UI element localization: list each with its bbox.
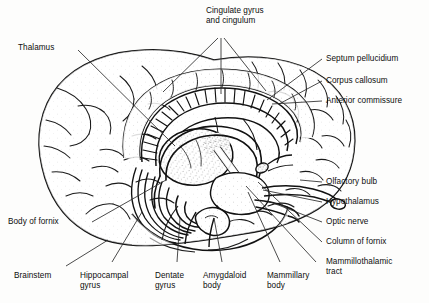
label-anterior-commissure: Anterior commissure	[326, 96, 402, 106]
label-body-of-fornix: Body of fornix	[8, 217, 59, 227]
label-hippocampal-gyrus: Hippocampal gyrus	[80, 271, 128, 291]
label-mammillary-body: Mammillary body	[267, 271, 309, 291]
label-corpus-callosum: Corpus callosum	[326, 76, 388, 86]
label-mammillothalamic-tract: Mammillothalamic tract	[326, 257, 392, 277]
label-brainstem: Brainstem	[14, 271, 51, 281]
label-septum-pellucidium: Septum pellucidium	[326, 54, 398, 64]
label-thalamus: Thalamus	[18, 43, 54, 53]
label-dentate-gyrus: Dentate gyrus	[155, 271, 184, 291]
label-optic-nerve: Optic nerve	[326, 217, 368, 227]
label-column-of-fornix: Column of fornix	[326, 237, 386, 247]
label-olfactory-bulb: Olfactory bulb	[326, 177, 377, 187]
label-amygdaloid-body: Amygdaloid body	[203, 271, 246, 291]
label-hypothalamus: Hypothalamus	[326, 197, 379, 207]
brain-anatomy-figure: Cingulate gyrus and cingulum Thalamus Se…	[0, 0, 429, 303]
label-cingulate-gyrus-and-cingulum: Cingulate gyrus and cingulum	[206, 6, 264, 26]
